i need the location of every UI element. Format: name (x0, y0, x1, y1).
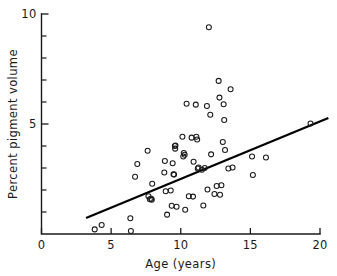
data-point (170, 161, 175, 166)
data-point (163, 189, 168, 194)
x-tick-label-15: 15 (243, 238, 258, 252)
data-point (135, 162, 140, 167)
x-tick-label-5: 5 (107, 238, 115, 252)
data-point (145, 148, 150, 153)
data-point (221, 102, 226, 107)
data-point (204, 103, 209, 108)
data-point (222, 118, 227, 123)
data-point (205, 187, 210, 192)
data-point (184, 101, 189, 106)
data-point (150, 181, 155, 186)
data-point (216, 78, 221, 83)
x-tick-label-10: 10 (173, 238, 188, 252)
y-tick-label-10: 10 (21, 7, 36, 21)
data-point (162, 158, 167, 163)
data-point (250, 173, 255, 178)
data-point (193, 102, 198, 107)
data-point (168, 188, 173, 193)
data-point (214, 184, 219, 189)
plot-canvas: 05101520510Age (years)Percent pigment vo… (0, 0, 337, 276)
x-tick-label-0: 0 (38, 238, 46, 252)
data-point (169, 203, 174, 208)
data-point (206, 25, 211, 30)
scatter-plot-figure: 05101520510Age (years)Percent pigment vo… (0, 0, 337, 276)
data-point (250, 154, 255, 159)
data-point (223, 147, 228, 152)
chart-graphics-layer: 05101520510Age (years)Percent pigment vo… (6, 7, 328, 271)
data-point (128, 216, 133, 221)
data-point (180, 134, 185, 139)
data-point (208, 112, 213, 117)
data-point (219, 183, 224, 188)
x-axis-title: Age (years) (145, 257, 216, 271)
data-point (92, 227, 97, 232)
y-axis-title: Percent pigment volume (6, 49, 20, 199)
data-point (201, 203, 206, 208)
data-point (162, 170, 167, 175)
data-point (183, 207, 188, 212)
axis-spines (42, 14, 321, 234)
data-point (133, 174, 138, 179)
data-point (191, 159, 196, 164)
x-tick-label-20: 20 (312, 238, 327, 252)
data-point (220, 140, 225, 145)
data-point (263, 155, 268, 160)
data-point (218, 192, 223, 197)
y-tick-label-5: 5 (29, 117, 37, 131)
data-point (209, 152, 214, 157)
data-point (212, 191, 217, 196)
data-point (217, 95, 222, 100)
data-point (228, 87, 233, 92)
data-point (99, 222, 104, 227)
data-point (128, 228, 133, 233)
data-point (165, 212, 170, 217)
data-point (174, 204, 179, 209)
data-point (189, 135, 194, 140)
